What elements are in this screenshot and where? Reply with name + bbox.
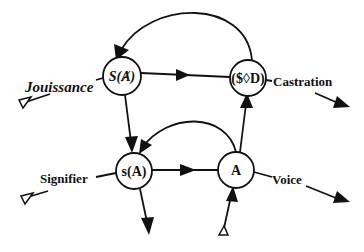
edge-voice-end xyxy=(306,186,336,198)
arrow-head-icon xyxy=(333,191,350,203)
arrow-head-icon xyxy=(180,164,196,176)
edge-lower-arc xyxy=(142,121,236,152)
edge-bottom-out xyxy=(140,189,147,222)
edge-voice-connector xyxy=(254,172,272,177)
edge-castration-end xyxy=(315,93,338,103)
edge-upper-arc xyxy=(121,13,252,60)
node-A: A xyxy=(218,152,254,188)
node-label: A xyxy=(231,163,242,178)
vector-start-triangle-icon xyxy=(19,97,31,108)
node-label: ($◊D) xyxy=(231,71,265,87)
vector-start-triangle-icon xyxy=(219,226,228,235)
arrow-head-icon xyxy=(176,69,190,81)
label-jouissance: Jouissance xyxy=(24,79,94,95)
arrow-head-icon xyxy=(125,136,138,153)
label-castration: Castration xyxy=(273,74,333,89)
node-s-A: s(A) xyxy=(116,153,152,189)
node-S-barred-A: S(Ⱥ) xyxy=(103,57,141,95)
edge-left-vertical xyxy=(125,95,131,142)
edge-right-vertical xyxy=(240,104,246,152)
vector-start-triangle-icon xyxy=(21,193,33,204)
graph-of-desire-diagram: S(Ⱥ) ($◊D) s(A) A Jouissance Castration … xyxy=(0,0,364,252)
arrow-head-icon xyxy=(333,96,350,108)
arrow-head-icon xyxy=(141,217,154,235)
node-S-barred-D: ($◊D) xyxy=(230,60,266,96)
edge-castration-connector xyxy=(266,80,272,81)
node-label: S(Ⱥ) xyxy=(109,69,135,85)
edge-jouissance-to-node xyxy=(96,78,103,80)
label-signifier: Signifier xyxy=(40,171,88,186)
node-label: s(A) xyxy=(122,164,147,180)
label-voice: Voice xyxy=(272,172,302,187)
edge-signifier-to-node xyxy=(96,173,116,177)
arrow-head-icon xyxy=(139,139,152,154)
